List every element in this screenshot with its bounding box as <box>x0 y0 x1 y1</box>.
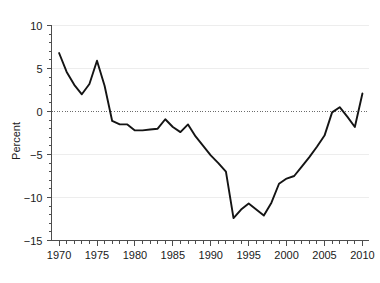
y-tick-label: −5 <box>30 149 43 161</box>
y-tick-label: 0 <box>36 106 42 118</box>
x-tick-label: 1970 <box>47 249 71 261</box>
x-tick-label: 2005 <box>312 249 336 261</box>
data-series-line <box>59 53 362 218</box>
y-tick-label: −10 <box>24 192 43 204</box>
x-tick-label: 1980 <box>123 249 147 261</box>
x-tick-label: 1990 <box>199 249 223 261</box>
gridlines <box>52 26 369 241</box>
x-tick-label: 1995 <box>236 249 260 261</box>
line-chart: 1050−5−10−15 197019751980198519901995200… <box>0 0 380 283</box>
x-tick-label: 2010 <box>350 249 374 261</box>
y-axis-title: Percent <box>10 122 22 160</box>
x-axis <box>52 241 369 246</box>
y-axis-tick-labels: 1050−5−10−15 <box>24 20 43 247</box>
x-tick-label: 2000 <box>274 249 298 261</box>
chart-container: 1050−5−10−15 197019751980198519901995200… <box>0 0 380 283</box>
y-tick-label: 5 <box>36 63 42 75</box>
y-tick-label: −15 <box>24 235 43 247</box>
series-path <box>59 53 362 218</box>
x-axis-tick-labels: 197019751980198519901995200020052010 <box>47 249 375 261</box>
y-axis <box>47 26 52 241</box>
y-tick-label: 10 <box>30 20 42 32</box>
x-tick-label: 1985 <box>161 249 185 261</box>
x-tick-label: 1975 <box>85 249 109 261</box>
